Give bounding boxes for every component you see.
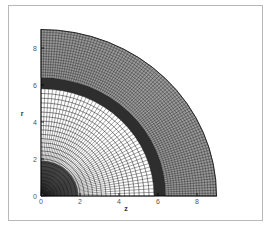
x-tick-label: 0: [39, 198, 43, 205]
y-tick-label: 8: [33, 45, 37, 52]
y-tick-label: 0: [33, 193, 37, 200]
x-tick-label: 4: [117, 198, 121, 205]
x-tick-label: 2: [78, 198, 82, 205]
y-tick-label: 2: [33, 156, 37, 163]
polar-mesh: [41, 30, 217, 197]
y-tick-label: 6: [33, 82, 37, 89]
y-axis-title: r: [21, 110, 24, 117]
x-tick-label: 8: [195, 198, 199, 205]
y-tick-label: 4: [33, 119, 37, 126]
x-tick-label: 6: [156, 198, 160, 205]
mesh-plot: 02468 02468 z r: [0, 0, 272, 226]
x-axis-title: z: [124, 205, 128, 212]
